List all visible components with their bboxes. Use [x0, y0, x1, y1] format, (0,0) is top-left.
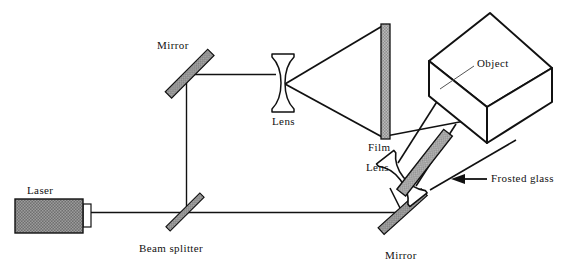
optics-diagram: Laser Mirror Lens Film Lens Object Frost…: [0, 0, 565, 274]
mirror-top-left: [165, 49, 214, 98]
label-lens-top: Lens: [272, 116, 295, 127]
label-laser: Laser: [27, 185, 53, 196]
diagram-canvas: [0, 0, 565, 274]
lens-top: [272, 54, 294, 112]
frosted-glass-plate: [397, 129, 452, 196]
label-film: Film: [368, 142, 390, 153]
beam-path-lens-cone-to-film: [285, 25, 384, 138]
label-mirror-bottom: Mirror: [385, 250, 417, 261]
laser-body: [15, 199, 83, 233]
label-mirror-top: Mirror: [157, 40, 189, 51]
label-beam-splitter: Beam splitter: [139, 243, 203, 254]
label-lens-bottom: Lens: [366, 162, 389, 173]
film-plate: [381, 24, 390, 139]
label-frosted-glass: Frosted glass: [491, 173, 554, 184]
label-object: Object: [477, 58, 509, 69]
laser-aperture: [83, 204, 91, 227]
